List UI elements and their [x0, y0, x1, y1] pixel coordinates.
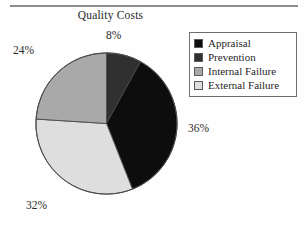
slice-label-internal-failure: 24% [13, 44, 34, 56]
legend-item-prevention: Prevention [194, 51, 292, 64]
pie-slice-internal-failure [36, 53, 106, 124]
legend-item-external-failure: External Failure [194, 79, 292, 92]
legend-swatch-prevention [194, 53, 203, 62]
legend-label-prevention: Prevention [208, 51, 256, 64]
legend-swatch-external-failure [194, 81, 203, 90]
legend-item-internal-failure: Internal Failure [194, 65, 292, 78]
pie-chart-svg [35, 52, 178, 195]
pie-slice-group [36, 53, 177, 194]
legend-label-external-failure: External Failure [208, 79, 279, 92]
legend-swatch-appraisal [194, 39, 203, 48]
slice-label-prevention: 8% [106, 29, 121, 41]
chart-title: Quality Costs [38, 9, 183, 21]
chart-legend: Appraisal Prevention Internal Failure Ex… [189, 32, 297, 97]
slice-label-appraisal: 36% [188, 122, 209, 134]
slice-label-external-failure: 32% [26, 199, 47, 211]
legend-item-appraisal: Appraisal [194, 37, 292, 50]
pie-chart [35, 52, 178, 195]
quality-costs-figure: Quality Costs 8% 36% 32% 24% Appraisal P… [0, 0, 307, 235]
legend-label-appraisal: Appraisal [208, 37, 251, 50]
figure-top-rule [10, 5, 298, 7]
legend-label-internal-failure: Internal Failure [208, 65, 276, 78]
legend-swatch-internal-failure [194, 67, 203, 76]
